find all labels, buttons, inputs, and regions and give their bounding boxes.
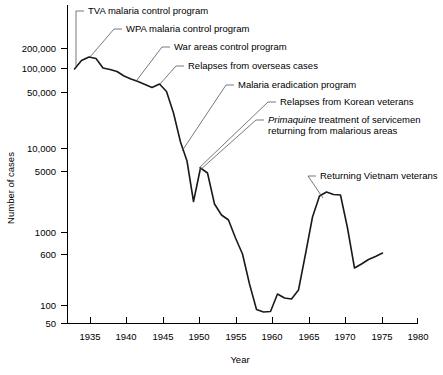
annotation-tva: TVA malaria control program bbox=[88, 5, 208, 16]
x-tick-label-1940: 1940 bbox=[115, 331, 136, 342]
annotation-primaquine-drug: Primaquine bbox=[268, 114, 316, 125]
axis-frame bbox=[68, 5, 418, 324]
leader-line-primaquine bbox=[200, 120, 264, 170]
annotation-labels: TVA malaria control program WPA malaria … bbox=[88, 5, 438, 181]
annotation-relapses-korean: Relapses from Korean veterans bbox=[280, 96, 414, 107]
y-tick-label-200000: 200,000 bbox=[22, 43, 56, 54]
leader-line-relapses-korean bbox=[199, 102, 276, 168]
x-tick-label-1935: 1935 bbox=[79, 331, 100, 342]
leader-line-relapses-overseas bbox=[160, 66, 184, 84]
annotation-relapses-overseas: Relapses from overseas cases bbox=[188, 60, 318, 71]
x-tick-label-1955: 1955 bbox=[225, 331, 246, 342]
y-tick-label-100000: 100,000 bbox=[22, 63, 56, 74]
leader-line-wpa bbox=[90, 29, 122, 57]
leader-line-eradication bbox=[182, 85, 234, 151]
x-tick-label-1960: 1960 bbox=[261, 331, 282, 342]
x-axis-ticks: 1935 1940 1945 1950 1955 1960 1965 1970 … bbox=[79, 317, 428, 343]
y-axis-title: Number of cases bbox=[5, 152, 16, 224]
y-tick-label-5000: 5000 bbox=[35, 166, 56, 177]
y-tick-label-50: 50 bbox=[45, 318, 56, 329]
x-tick-label-1945: 1945 bbox=[152, 331, 173, 342]
annotation-primaquine-rest: treatment of servicemen bbox=[316, 114, 421, 125]
x-tick-label-1950: 1950 bbox=[188, 331, 209, 342]
y-axis-ticks: 200,000 100,000 50,000 10,000 5000 1000 … bbox=[22, 43, 68, 329]
annotation-primaquine-line2: returning from malarious areas bbox=[268, 125, 398, 136]
leader-line-war-areas bbox=[137, 47, 170, 80]
malaria-cases-chart: 200,000 100,000 50,000 10,000 5000 1000 … bbox=[0, 0, 443, 375]
y-tick-label-50000: 50,000 bbox=[27, 87, 56, 98]
x-tick-label-1970: 1970 bbox=[334, 331, 355, 342]
annotation-war-areas: War areas control program bbox=[174, 41, 287, 52]
x-axis-title: Year bbox=[230, 354, 249, 365]
annotation-vietnam: Returning Vietnam veterans bbox=[320, 170, 438, 181]
annotation-eradication: Malaria eradication program bbox=[238, 79, 356, 90]
y-tick-label-100: 100 bbox=[40, 300, 56, 311]
x-tick-label-1975: 1975 bbox=[371, 331, 392, 342]
annotation-primaquine-line1: Primaquine treatment of servicemen bbox=[268, 114, 421, 125]
chart-canvas: 200,000 100,000 50,000 10,000 5000 1000 … bbox=[0, 0, 443, 375]
leader-line-tva bbox=[76, 11, 84, 66]
y-tick-label-600: 600 bbox=[40, 249, 56, 260]
x-tick-label-1980: 1980 bbox=[407, 331, 428, 342]
annotation-wpa: WPA malaria control program bbox=[126, 23, 249, 34]
y-tick-label-1000: 1000 bbox=[35, 227, 56, 238]
x-tick-label-1965: 1965 bbox=[298, 331, 319, 342]
y-tick-label-10000: 10,000 bbox=[27, 143, 56, 154]
